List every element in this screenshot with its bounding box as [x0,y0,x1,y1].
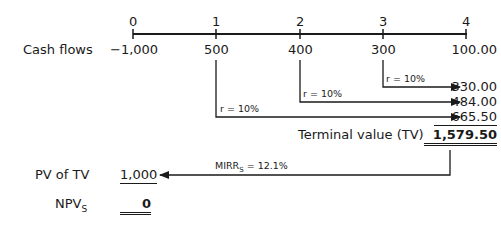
terminal-value: 1,579.50 [424,127,497,146]
rate-label-period-1: r = 10% [220,103,259,114]
cash-flow-3: 300 [371,42,396,57]
period-label-2: 2 [296,14,304,29]
period-label-1: 1 [212,14,220,29]
cash-flow-1: 500 [204,42,229,57]
period-label-3: 3 [379,14,387,29]
npv-label: NPVS [55,196,87,214]
period-label-0: 0 [129,14,137,29]
future-value-period-1: 665.50 [434,109,497,126]
rate-label-period-3: r = 10% [386,73,425,84]
future-value-period-2: 484.00 [432,94,497,109]
pv-of-tv-value: 1,000 [120,167,157,184]
cash-flow-2: 400 [288,42,313,57]
cash-flows-label: Cash flows [23,42,93,57]
mirr-label: MIRRS = 12.1% [215,160,288,174]
timeline-axis [133,29,467,39]
diagram-lines [0,0,501,228]
future-value-period-3: 330.00 [432,79,497,94]
discount-arrow [160,150,450,175]
npv-value: 0 [120,196,151,215]
cash-flow-0: −1,000 [110,42,158,57]
pv-of-tv-label: PV of TV [35,167,89,182]
terminal-value-label: Terminal value (TV) [298,127,424,142]
rate-label-period-2: r = 10% [303,88,342,99]
cash-flow-4: 100.00 [432,42,497,57]
period-label-4: 4 [462,14,470,29]
